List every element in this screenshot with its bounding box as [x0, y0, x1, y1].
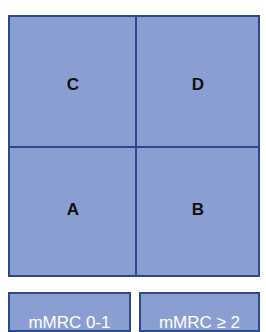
legend-mmrc-high: mMRC ≥ 2	[139, 292, 260, 332]
quadrant-b-label: B	[192, 200, 204, 220]
horizontal-divider	[10, 146, 258, 148]
quadrant-d-label: D	[192, 75, 204, 95]
legend-mmrc-low: mMRC 0-1	[8, 292, 131, 332]
legend-mmrc-high-label: mMRC ≥ 2	[141, 313, 258, 332]
legend-mmrc-low-label: mMRC 0-1	[10, 313, 129, 332]
quadrant-a-label: A	[67, 200, 79, 220]
quadrant-grid: C D A B	[8, 15, 260, 277]
quadrant-c-label: C	[67, 75, 79, 95]
